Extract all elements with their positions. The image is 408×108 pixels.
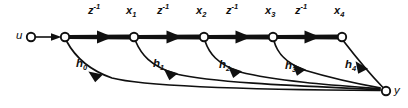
label-state-x2: x2 bbox=[196, 5, 206, 16]
delay-exp-1: -1 bbox=[94, 2, 101, 11]
label-delay-2: z-1 bbox=[157, 5, 169, 16]
label-gain-h4: h4 bbox=[345, 59, 356, 71]
node-n0 bbox=[61, 33, 69, 41]
label-delay-1: z-1 bbox=[88, 5, 100, 16]
node-state-x1 bbox=[130, 33, 138, 41]
gain-sub-4: 4 bbox=[352, 64, 356, 73]
label-delay-3: z-1 bbox=[226, 5, 238, 16]
delay-exp-4: -1 bbox=[301, 2, 308, 11]
delay-edge-1 bbox=[69, 31, 130, 44]
gain-sub-2: 2 bbox=[226, 64, 230, 73]
delay-exp-3: -1 bbox=[232, 2, 239, 11]
figure-canvas: u y z-1 z-1 z-1 z-1 x1 x2 x3 x4 h0 h1 h2… bbox=[0, 0, 408, 108]
label-input-u: u bbox=[16, 30, 22, 42]
state-sub-1: 1 bbox=[132, 10, 136, 19]
delay-exp-2: -1 bbox=[163, 2, 170, 11]
gain-edge-h1 bbox=[136, 41, 381, 90]
gain-sub-0: 0 bbox=[83, 63, 87, 72]
state-sub-4: 4 bbox=[340, 10, 344, 19]
delay-edge-3 bbox=[208, 31, 269, 44]
gain-sub-3: 3 bbox=[292, 65, 296, 74]
gain-sub-1: 1 bbox=[160, 63, 164, 72]
node-input-u bbox=[27, 33, 35, 41]
label-state-x3: x3 bbox=[265, 5, 275, 16]
label-gain-h0: h0 bbox=[76, 58, 87, 70]
label-gain-h2: h2 bbox=[219, 59, 230, 71]
gain-base-0: h bbox=[76, 57, 83, 69]
label-output-y: y bbox=[394, 85, 400, 97]
label-delay-4: z-1 bbox=[295, 5, 307, 16]
gain-base-4: h bbox=[345, 58, 352, 70]
node-state-x4 bbox=[338, 33, 346, 41]
label-state-x4: x4 bbox=[334, 5, 344, 16]
delay-edge-2 bbox=[138, 31, 200, 44]
node-output-y bbox=[382, 87, 390, 95]
delay-edge-4 bbox=[277, 31, 338, 44]
gain-base-2: h bbox=[219, 58, 226, 70]
state-sub-2: 2 bbox=[202, 10, 206, 19]
gain-base-3: h bbox=[285, 59, 292, 71]
edge-input-u-to-n0 bbox=[36, 33, 62, 41]
label-state-x1: x1 bbox=[126, 5, 136, 16]
state-sub-3: 3 bbox=[271, 10, 275, 19]
label-gain-h1: h1 bbox=[153, 58, 164, 70]
gain-base-1: h bbox=[153, 57, 160, 69]
label-gain-h3: h3 bbox=[285, 60, 296, 72]
node-state-x3 bbox=[269, 33, 277, 41]
node-state-x2 bbox=[200, 33, 208, 41]
